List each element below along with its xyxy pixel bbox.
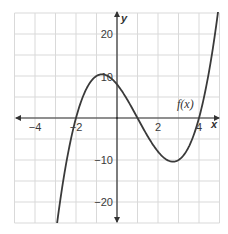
x-tick-label: 4: [196, 121, 202, 133]
function-label: f(x): [177, 97, 194, 111]
x-tick-label: −2: [70, 121, 83, 133]
function-graph: −4 −2 2 4 20 10 −10 −20 x y f(x): [0, 0, 228, 234]
y-tick-label: −20: [94, 196, 113, 208]
y-tick-label: 10: [101, 71, 113, 83]
y-axis-label: y: [120, 12, 128, 24]
y-tick-label: 20: [101, 28, 113, 40]
y-tick-label: −10: [94, 154, 113, 166]
x-tick-label: −4: [29, 121, 42, 133]
x-tick-label: 2: [155, 121, 161, 133]
x-axis-label: x: [210, 118, 218, 130]
